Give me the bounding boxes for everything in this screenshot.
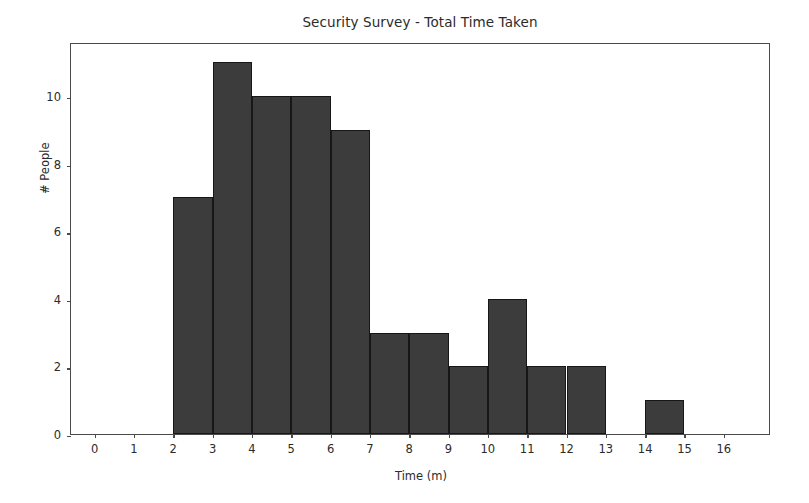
histogram-bar — [449, 366, 488, 434]
histogram-bar — [213, 62, 252, 434]
histogram-bar — [488, 299, 527, 434]
y-tick-label: 2 — [54, 360, 61, 374]
x-tick: 2 — [173, 434, 174, 438]
histogram-bar — [173, 197, 212, 434]
histogram-bar — [370, 333, 409, 434]
histogram-bars — [71, 44, 769, 434]
x-tick-label: 10 — [481, 442, 496, 456]
x-tick: 7 — [370, 434, 371, 438]
x-tick-label: 16 — [716, 442, 731, 456]
y-tick-label: 0 — [54, 428, 61, 442]
x-tick: 4 — [252, 434, 253, 438]
x-tick-label: 3 — [209, 442, 216, 456]
x-tick-label: 5 — [288, 442, 295, 456]
plot-area: # People 0246810 01234567891011121314151… — [70, 43, 770, 435]
histogram-bar — [252, 96, 291, 434]
x-tick: 0 — [95, 434, 96, 438]
x-tick: 15 — [684, 434, 685, 438]
chart-figure: Security Survey - Total Time Taken # Peo… — [0, 0, 809, 503]
y-axis-label: # People — [38, 143, 52, 195]
y-tick-label: 8 — [54, 158, 61, 172]
x-tick-label: 11 — [520, 442, 535, 456]
y-tick-label: 6 — [54, 225, 61, 239]
chart-title: Security Survey - Total Time Taken — [70, 14, 770, 30]
x-tick-label: 7 — [366, 442, 373, 456]
x-tick-label: 13 — [599, 442, 614, 456]
x-tick-label: 12 — [559, 442, 574, 456]
x-tick-label: 0 — [91, 442, 98, 456]
x-tick-label: 6 — [327, 442, 334, 456]
histogram-bar — [527, 366, 566, 434]
x-tick: 1 — [134, 434, 135, 438]
x-tick: 8 — [409, 434, 410, 438]
histogram-bar — [645, 400, 684, 434]
x-tick-label: 2 — [170, 442, 177, 456]
histogram-bar — [409, 333, 448, 434]
x-tick: 6 — [331, 434, 332, 438]
y-tick-label: 4 — [54, 293, 61, 307]
x-tick: 14 — [645, 434, 646, 438]
x-tick-label: 15 — [677, 442, 692, 456]
x-tick-label: 8 — [406, 442, 413, 456]
x-tick-label: 4 — [248, 442, 255, 456]
x-tick-label: 14 — [638, 442, 653, 456]
x-tick: 3 — [213, 434, 214, 438]
histogram-bar — [331, 130, 370, 434]
x-tick-label: 1 — [130, 442, 137, 456]
x-tick: 12 — [567, 434, 568, 438]
y-tick: 0 — [67, 436, 71, 437]
histogram-bar — [567, 366, 606, 434]
x-axis-label: Time (m) — [71, 469, 771, 483]
x-tick: 11 — [527, 434, 528, 438]
x-tick: 10 — [488, 434, 489, 438]
x-tick: 5 — [291, 434, 292, 438]
x-tick-label: 9 — [445, 442, 452, 456]
x-tick: 13 — [606, 434, 607, 438]
histogram-bar — [291, 96, 330, 434]
x-tick: 16 — [724, 434, 725, 438]
y-tick-label: 10 — [46, 90, 61, 104]
x-tick: 9 — [449, 434, 450, 438]
